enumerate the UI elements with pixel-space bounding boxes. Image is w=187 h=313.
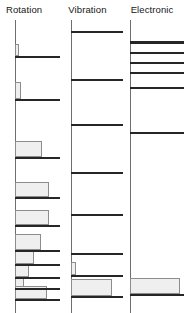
cluster-box [15,141,42,156]
plot-area [125,20,187,313]
plot-area [62,20,124,313]
cluster-bar [130,41,184,44]
panel-rotation: Rotation [0,0,62,313]
cluster-bar [15,250,60,252]
cluster-bar [71,124,123,126]
cluster-bar [15,157,60,159]
cluster-bar [15,264,60,266]
cluster-bar [71,253,123,255]
panel-title: Vibration [68,4,106,15]
cluster-bar [130,62,184,64]
cluster-bar [130,72,184,74]
cluster-bar [15,277,60,279]
cluster-bar [71,172,123,174]
cluster-box [15,210,49,225]
cluster-bar [15,99,60,101]
cluster-bar [15,288,60,290]
cluster-bar [71,275,123,277]
panel-vibration: Vibration [62,0,124,313]
cluster-bar [71,296,123,298]
cluster-bar [71,31,123,33]
cluster-box [15,44,19,56]
cluster-bar [71,214,123,216]
panel-title: Rotation [6,4,42,15]
cluster-bar [130,294,184,296]
cluster-bar [130,132,184,134]
cluster-bar [71,79,123,81]
cluster-bar [15,56,60,58]
cluster-box [15,182,49,198]
plot-area [0,20,62,313]
panel-title: Electronic [131,4,174,15]
cluster-bar [15,225,60,227]
cluster-box [71,279,112,296]
cluster-bar [15,299,60,301]
dendrogram-figure: RotationVibrationElectronic [0,0,187,313]
cluster-box [15,82,21,98]
vertical-axis [130,20,131,313]
cluster-bar [130,87,184,89]
cluster-box [130,278,180,295]
cluster-box [15,234,41,250]
cluster-bar [130,52,184,54]
panel-electronic: Electronic [125,0,187,313]
cluster-box [71,262,76,275]
cluster-bar [15,197,60,199]
